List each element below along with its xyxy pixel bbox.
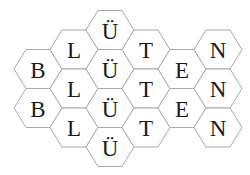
hex-letter: E bbox=[175, 97, 189, 122]
hex-letter: Ü bbox=[102, 19, 119, 44]
hex-letter-grid: BBLLLÜÜÜÜTTTEENNN bbox=[0, 0, 250, 175]
hex-letter: T bbox=[139, 116, 153, 141]
hex-letter: N bbox=[210, 38, 227, 63]
hex-letter: L bbox=[67, 38, 81, 63]
hex-letter: T bbox=[139, 38, 153, 63]
hex-letter: Ü bbox=[102, 136, 119, 161]
hex-letter: N bbox=[210, 116, 227, 141]
hex-letter: L bbox=[67, 77, 81, 102]
hex-letter: Ü bbox=[102, 58, 119, 83]
hex-letter: E bbox=[175, 58, 189, 83]
hex-letter: T bbox=[139, 77, 153, 102]
hex-letter: B bbox=[30, 97, 45, 122]
hex-letter: Ü bbox=[102, 97, 119, 122]
hex-letter: B bbox=[30, 58, 45, 83]
hex-letter: L bbox=[67, 116, 81, 141]
hex-letter: N bbox=[210, 77, 227, 102]
